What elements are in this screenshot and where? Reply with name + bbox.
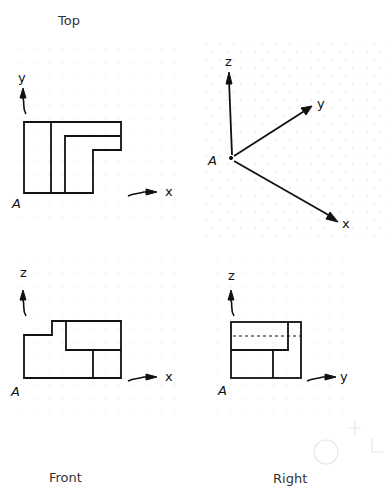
isometric-y-label: y xyxy=(317,96,325,111)
front-view-title: Front xyxy=(49,470,82,485)
watermark-icon xyxy=(314,420,384,464)
right-view-y-label: y xyxy=(340,369,348,384)
isometric-z-label: z xyxy=(225,54,232,69)
top-view-origin-label: A xyxy=(12,196,21,211)
top-view-x-label: x xyxy=(165,184,173,199)
front-view-z-label: z xyxy=(20,265,27,280)
top-view-y-label: y xyxy=(18,70,26,85)
right-view-origin-label: A xyxy=(218,383,227,398)
right-view-title: Right xyxy=(273,471,307,486)
top-view-title: Top xyxy=(58,13,80,28)
front-view-grid xyxy=(8,255,188,425)
isometric-origin-label: A xyxy=(208,153,217,168)
orthographic-projection-diagram xyxy=(0,0,388,496)
front-view-origin-label: A xyxy=(11,384,20,399)
isometric-x-label: x xyxy=(342,216,350,231)
origin-point xyxy=(229,156,232,159)
isometric-grid xyxy=(205,38,388,238)
right-view-z-label: z xyxy=(228,268,235,283)
front-view-x-label: x xyxy=(165,369,173,384)
